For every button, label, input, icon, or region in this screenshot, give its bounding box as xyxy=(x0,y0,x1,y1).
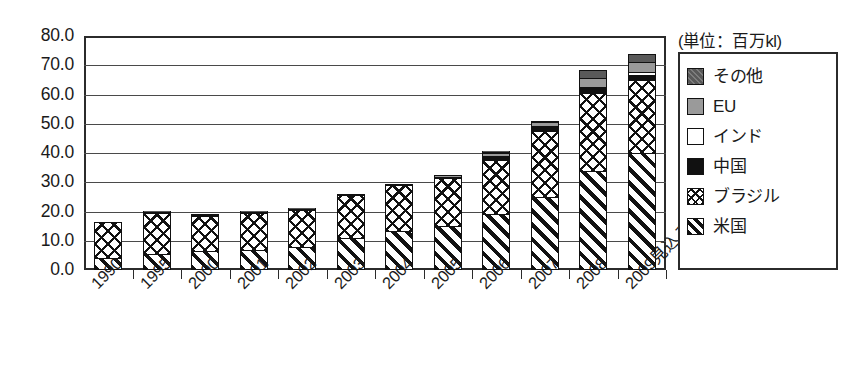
legend-item-label: インド xyxy=(713,128,763,145)
x-axis-tick-label: 2006 xyxy=(476,255,513,292)
legend-item[interactable]: 中国 xyxy=(687,151,836,181)
legend-item[interactable]: インド xyxy=(687,121,836,151)
legend-item[interactable]: EU xyxy=(687,91,836,121)
x-axis-tick-label: 2001 xyxy=(234,255,271,292)
usa-swatch xyxy=(687,218,704,235)
legend-item[interactable]: ブラジル xyxy=(687,181,836,211)
x-axis-tick-label: 2007 xyxy=(525,255,562,292)
legend-item-label: その他 xyxy=(713,68,763,85)
x-axis-tick-label: 2004 xyxy=(379,255,416,292)
unit-note: (単位：百万kl) xyxy=(678,28,781,52)
legend-item-label: EU xyxy=(713,98,736,115)
legend-item-label: 米国 xyxy=(713,218,746,235)
brazil-swatch xyxy=(687,188,704,205)
eu-swatch xyxy=(687,98,704,115)
other-swatch xyxy=(687,68,704,85)
x-axis-tick-label: 1995 xyxy=(137,255,174,292)
x-axis-tick-label: 2003 xyxy=(331,255,368,292)
legend-item[interactable]: その他 xyxy=(687,61,836,91)
india-swatch xyxy=(687,128,704,145)
x-axis-tick-label: 2000 xyxy=(185,255,222,292)
x-axis-tick-label: 1990 xyxy=(88,255,125,292)
x-axis-tick-label: 2002 xyxy=(282,255,319,292)
legend-item[interactable]: 米国 xyxy=(687,211,836,241)
legend: その他EUインド中国ブラジル米国 xyxy=(678,52,838,270)
x-axis-tick-label: 2005 xyxy=(428,255,465,292)
legend-item-label: ブラジル xyxy=(713,188,780,205)
chart-canvas: 80.070.060.050.040.030.020.010.00.0 1990… xyxy=(0,0,845,392)
china-swatch xyxy=(687,158,704,175)
x-axis-tick-label: 2008 xyxy=(573,255,610,292)
legend-item-label: 中国 xyxy=(713,158,746,175)
